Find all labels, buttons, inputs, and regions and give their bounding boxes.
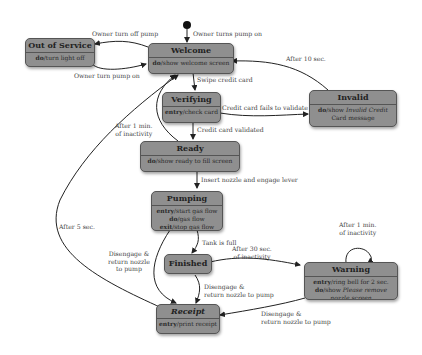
label-disengage-right: Disengage &return nozzle to pump bbox=[261, 310, 331, 325]
state-title: Ready bbox=[141, 142, 239, 156]
label-disengage-mid: Disengage &return nozzle to pump bbox=[204, 283, 274, 298]
state-title: Out of Service bbox=[26, 39, 94, 53]
state-title: Finished bbox=[165, 255, 211, 271]
state-actions: do/show ready to fill screen bbox=[141, 156, 239, 166]
label-after-1-min-inactivity: After 1 min.of inactivity bbox=[115, 122, 152, 137]
label-swipe-credit-card: Swipe credit card bbox=[197, 76, 253, 84]
state-actions: entry/start gas flow do/gas flow exit/st… bbox=[152, 206, 222, 231]
state-receipt[interactable]: Receipt entry/print receipt bbox=[156, 304, 220, 334]
state-warning[interactable]: Warning entry/ring bell for 2 sec. do/sh… bbox=[304, 262, 398, 300]
state-finished[interactable]: Finished bbox=[164, 254, 212, 274]
label-warning-loop: After 1 min.of inactivity bbox=[339, 221, 376, 236]
state-actions: do/show welcome screen bbox=[149, 58, 233, 68]
state-title: Pumping bbox=[152, 192, 222, 206]
state-verifying[interactable]: Verifying entry/check card bbox=[162, 92, 221, 123]
state-invalid[interactable]: Invalid do/show Invalid CreditCard messa… bbox=[309, 90, 397, 127]
state-title: Welcome bbox=[149, 44, 233, 58]
state-pumping[interactable]: Pumping entry/start gas flow do/gas flow… bbox=[151, 191, 223, 231]
state-actions: do/show Invalid CreditCard message bbox=[310, 105, 396, 123]
label-credit-card-fails: Credit card fails to validate bbox=[222, 104, 308, 112]
initial-state-dot bbox=[183, 21, 191, 29]
label-after-30-sec: After 30 sec.of inactivity bbox=[232, 245, 272, 260]
label-owner-turn-pump-on: Owner turn pump on bbox=[74, 72, 140, 80]
state-title: Receipt bbox=[157, 305, 219, 319]
state-actions: entry/check card bbox=[163, 107, 220, 117]
state-out-of-service[interactable]: Out of Service do/turn light off bbox=[25, 38, 95, 67]
state-actions: entry/print receipt bbox=[157, 319, 219, 329]
label-disengage-left: Disengage &return nozzleto pump bbox=[108, 250, 150, 273]
state-title: Invalid bbox=[310, 91, 396, 105]
state-title: Verifying bbox=[163, 93, 220, 107]
state-title: Warning bbox=[305, 263, 397, 277]
label-after-10-sec: After 10 sec. bbox=[286, 55, 326, 63]
state-actions: do/turn light off bbox=[26, 53, 94, 63]
label-owner-turns-pump-on: Owner turns pump on bbox=[193, 30, 262, 38]
state-welcome[interactable]: Welcome do/show welcome screen bbox=[148, 43, 234, 74]
label-insert-nozzle: Insert nozzle and engage lever bbox=[201, 176, 298, 184]
label-after-5-sec: After 5 sec. bbox=[59, 223, 95, 231]
state-ready[interactable]: Ready do/show ready to fill screen bbox=[140, 141, 240, 172]
state-actions: entry/ring bell for 2 sec. do/show Pleas… bbox=[305, 277, 397, 300]
label-credit-card-validated: Credit card validated bbox=[197, 126, 264, 134]
label-owner-turn-off-pump: Owner turn off pump bbox=[92, 30, 158, 38]
